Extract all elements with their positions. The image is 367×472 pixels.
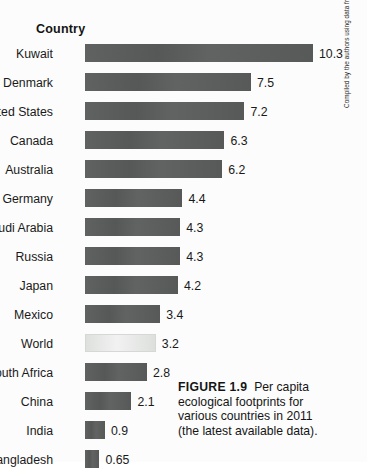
bar-category-label: World: [0, 335, 53, 353]
bar-value-label: 4.4: [188, 190, 205, 208]
bar-fill: [85, 392, 131, 410]
bar-row: United States7.2: [0, 102, 340, 131]
bar-track: [85, 247, 180, 265]
bar-category-label: Germany: [0, 190, 53, 208]
bar-row: Australia6.2: [0, 160, 340, 189]
bar-value-label: 2.1: [137, 393, 154, 411]
bar-fill: [85, 102, 244, 120]
bar-value-label: 4.3: [186, 248, 203, 266]
bar-fill: [85, 450, 99, 468]
bar-track: [85, 44, 313, 62]
bar-fill: [85, 334, 156, 352]
bar-value-label: 10.3: [319, 45, 343, 63]
bar-track: [85, 363, 147, 381]
bar-row: Kuwait10.3: [0, 44, 340, 73]
bar-track: [85, 450, 99, 468]
bar-value-label: 3.2: [162, 335, 179, 353]
bar-category-label: Denmark: [0, 74, 53, 92]
bar-category-label: Canada: [0, 132, 53, 150]
bar-value-label: 4.3: [186, 219, 203, 237]
source-credit-text: Compiled by the authors using data from …: [343, 0, 351, 108]
bar-track: [85, 218, 180, 236]
bar-track: [85, 189, 182, 207]
bar-fill: [85, 363, 147, 381]
bar-row: Canada6.3: [0, 131, 340, 160]
bar-category-label: China: [0, 393, 53, 411]
figure-caption: FIGURE 1.9 Per capita ecological footpri…: [178, 380, 330, 438]
bar-category-label: United States: [0, 103, 53, 121]
bar-track: [85, 73, 251, 91]
bar-track: [85, 305, 160, 323]
bar-category-label: Kuwait: [0, 45, 53, 63]
bar-fill: [85, 276, 178, 294]
bar-row: Bangladesh0.65: [0, 450, 340, 472]
bar-value-label: 6.2: [228, 161, 245, 179]
bar-fill: [85, 247, 180, 265]
bar-track: [85, 102, 244, 120]
bar-value-label: 0.65: [105, 451, 129, 469]
bar-row: Saudi Arabia4.3: [0, 218, 340, 247]
bar-track: [85, 392, 131, 410]
bar-track: [85, 131, 224, 149]
bar-category-label: Saudi Arabia: [0, 219, 53, 237]
bar-fill: [85, 189, 182, 207]
bar-category-label: Australia: [0, 161, 53, 179]
bar-value-label: 2.8: [153, 364, 170, 382]
bar-fill: [85, 73, 251, 91]
bar-track: [85, 160, 222, 178]
bar-value-label: 3.4: [166, 306, 183, 324]
bar-fill: [85, 131, 224, 149]
bar-fill: [85, 44, 313, 62]
bar-category-label: India: [0, 422, 53, 440]
bar-track: [85, 421, 105, 439]
bar-fill: [85, 421, 105, 439]
bar-fill: [85, 160, 222, 178]
axis-title-country: Country: [36, 22, 85, 36]
bar-row: Denmark7.5: [0, 73, 340, 102]
bar-track: [85, 276, 178, 294]
bar-value-label: 0.9: [111, 422, 128, 440]
bar-category-label: Russia: [0, 248, 53, 266]
bar-value-label: 4.2: [184, 277, 201, 295]
bar-category-label: South Africa: [0, 364, 53, 382]
bar-category-label: Bangladesh: [0, 451, 53, 469]
bar-row: World3.2: [0, 334, 340, 363]
bar-category-label: Mexico: [0, 306, 53, 324]
bar-row: Germany4.4: [0, 189, 340, 218]
bar-value-label: 7.5: [257, 74, 274, 92]
bar-row: Mexico3.4: [0, 305, 340, 334]
figure-caption-label: FIGURE 1.9: [178, 380, 247, 394]
bar-fill: [85, 305, 160, 323]
bar-row: Russia4.3: [0, 247, 340, 276]
bar-value-label: 6.3: [230, 132, 247, 150]
bar-row: Japan4.2: [0, 276, 340, 305]
bar-fill: [85, 218, 180, 236]
bar-track: [85, 334, 156, 352]
bar-value-label: 7.2: [250, 103, 267, 121]
bar-category-label: Japan: [0, 277, 53, 295]
